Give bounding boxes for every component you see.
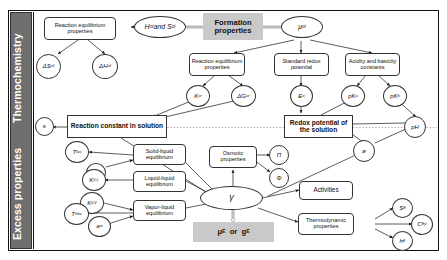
node-reaction-equilibrium-properties-right[interactable]: Reaction equilibrium properties — [189, 53, 245, 76]
node-activity-coefficient-gamma[interactable]: γ — [200, 186, 263, 210]
node-delta-s-formation[interactable]: ΔSof — [36, 54, 61, 79]
node-osmotic-properties[interactable]: Osmotic properties — [209, 146, 257, 168]
node-water-activity[interactable]: aw — [88, 216, 111, 237]
node-formation-properties[interactable]: Formation properties — [203, 13, 263, 40]
node-redox-potential-of-the-solution[interactable]: Redox potential of the solution — [284, 115, 353, 138]
diagram-root: Thermochemistry Excess properties — [0, 0, 447, 260]
node-solid-liquid-equilibrium[interactable]: Solid-liquid equilibrium — [133, 144, 186, 165]
node-partition-coefficient-ll[interactable]: KiLL — [82, 169, 106, 191]
node-chemical-potential[interactable]: μoi — [281, 16, 323, 38]
node-vapor-liquid-equilibrium[interactable]: Vapor-liquid equilibrium — [133, 200, 186, 221]
node-thermodynamic-properties[interactable]: Thermodynamic properties — [298, 213, 354, 235]
node-boiling-temperature[interactable]: Tebu — [64, 203, 89, 225]
node-excess-heat-capacity[interactable]: CEp — [411, 214, 433, 235]
node-fusion-temperature[interactable]: Tfus — [65, 141, 89, 163]
node-pkb[interactable]: pKb — [383, 85, 407, 107]
sidebar-item-thermochemistry: Thermochemistry — [11, 19, 33, 137]
node-enthalpy-entropy[interactable]: Hoi and Soi — [134, 16, 186, 38]
node-reaction-equilibrium-properties-left[interactable]: Reaction equilibrium properties — [44, 17, 116, 40]
node-excess-enthalpy[interactable]: hE — [392, 231, 413, 251]
node-pka[interactable]: pKa — [341, 85, 365, 107]
node-excess-chemical-potential[interactable]: μE or gE — [193, 222, 274, 242]
node-activities[interactable]: Activities — [299, 181, 353, 200]
node-delta-h-formation[interactable]: ΔHof — [92, 54, 118, 79]
category-sidebar: Thermochemistry Excess properties — [10, 12, 32, 249]
node-excess-entropy[interactable]: SE — [392, 198, 413, 218]
node-reaction-constant-in-solution[interactable]: Reaction constant in solution — [67, 115, 167, 138]
node-osmotic-pressure[interactable]: Π — [269, 145, 289, 165]
node-liquid-liquid-equilibrium[interactable]: Liquid-liquid equilibrium — [133, 171, 186, 192]
sidebar-item-excess-properties: Excess properties — [11, 139, 33, 249]
node-ph[interactable]: pH — [404, 116, 426, 138]
node-osmotic-coefficient[interactable]: Φ — [269, 168, 289, 188]
node-activity-ai[interactable]: ai — [353, 140, 375, 162]
node-conductivity-kappa[interactable]: κ — [35, 117, 54, 136]
node-acidity-basicity-constants[interactable]: Acidity and basicity constants — [345, 53, 400, 76]
node-gibbs-energy-reaction[interactable]: ΔGor — [231, 85, 256, 107]
diagram-inner-divider — [33, 12, 34, 249]
node-equilibrium-constant[interactable]: Kor — [186, 85, 210, 107]
node-standard-redox-potential[interactable]: Standard redox potential — [274, 53, 329, 76]
node-standard-potential[interactable]: Eo — [290, 85, 313, 107]
